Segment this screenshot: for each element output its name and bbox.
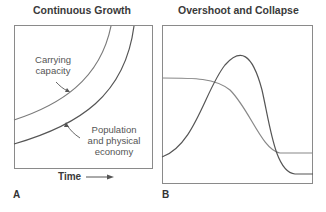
time-label-text: Time: [58, 171, 81, 182]
carrying-capacity-label-line2: capacity: [28, 65, 78, 76]
panel-a-title: Continuous Growth: [33, 4, 131, 16]
carrying-capacity-label: Carrying capacity: [28, 54, 78, 76]
diagram-canvas: [0, 0, 326, 212]
carrying-capacity-label-line1: Carrying: [28, 54, 78, 65]
population-label-line2: and physical: [82, 135, 146, 146]
x-axis-label: Time: [58, 171, 116, 182]
population-label-line1: Population: [82, 124, 146, 135]
population-label-line3: economy: [82, 146, 146, 157]
panel-b-frame: [163, 26, 313, 184]
panel-b-letter: B: [162, 189, 169, 200]
population-label: Population and physical economy: [82, 124, 146, 157]
overshoot-population-curve: [162, 55, 313, 174]
overshoot-carrying-capacity-curve: [162, 78, 313, 153]
panel-a-letter: A: [13, 189, 20, 200]
panel-b-title: Overshoot and Collapse: [178, 4, 299, 16]
right-arrow-icon: [84, 173, 116, 181]
